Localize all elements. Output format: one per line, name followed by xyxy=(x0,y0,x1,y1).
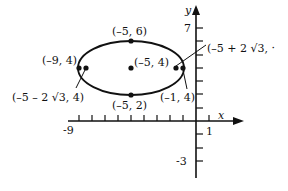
x-tick-label-1: 1 xyxy=(206,125,213,138)
point-center xyxy=(128,65,133,70)
points xyxy=(76,38,185,97)
x-axis-arrow-icon xyxy=(233,117,244,125)
point-right-focus xyxy=(173,65,178,70)
x-ticks xyxy=(79,115,209,121)
point-top xyxy=(128,38,133,43)
y-axis-arrow-icon xyxy=(192,5,200,15)
label-center: (–5, 4) xyxy=(134,56,169,69)
label-right-vertex: (–1, 4) xyxy=(160,91,195,104)
x-axis-label: x xyxy=(218,109,225,122)
label-top: (–5, 6) xyxy=(112,25,147,38)
x-tick-label-neg9: -9 xyxy=(63,124,74,137)
leader-right-vertex xyxy=(183,70,187,89)
y-tick-label-neg3: -3 xyxy=(176,155,187,168)
label-right-focus: (–5 + 2 √3, · xyxy=(207,42,275,55)
point-left-focus xyxy=(83,65,88,70)
point-left-vertex xyxy=(76,65,81,70)
leader-left-focus xyxy=(76,70,85,88)
coordinate-diagram: y x -9 1 7 -3 (–5, 6) (–5, 4) (–5, 2) (–… xyxy=(0,0,288,191)
label-left-focus: (–5 – 2 √3, 4) xyxy=(12,91,84,104)
label-bottom: (–5, 2) xyxy=(112,99,147,112)
label-left-vertex: (–9, 4) xyxy=(42,54,77,67)
y-tick-label-7: 7 xyxy=(184,22,191,35)
y-axis-label: y xyxy=(184,4,192,17)
point-right-vertex xyxy=(180,65,185,70)
point-bottom xyxy=(128,92,133,97)
